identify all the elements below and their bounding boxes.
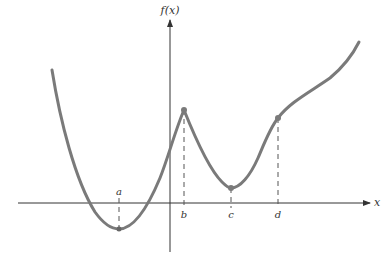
point-a (117, 227, 122, 232)
point-d (275, 115, 281, 121)
function-graph: f(x) x a b c d (0, 0, 389, 269)
y-axis-label: f(x) (160, 4, 180, 17)
function-curve (52, 42, 359, 229)
point-c (228, 185, 234, 191)
point-b (181, 107, 187, 113)
x-axis-label: x (374, 196, 381, 209)
label-d: d (275, 209, 281, 220)
label-c: c (228, 209, 234, 220)
label-b: b (181, 209, 187, 220)
label-a: a (116, 186, 122, 197)
